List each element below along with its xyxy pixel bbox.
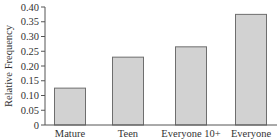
y-tick-label: 0.25 [21,46,39,57]
x-tick-label: Everyone 10+ [161,128,220,139]
bar-everyone-10 [176,47,207,125]
bar-chart: 00.050.100.150.200.250.300.350.40 Mature… [0,0,277,139]
y-tick-label: 0 [34,120,39,131]
y-tick-label: 0.35 [21,16,39,27]
bar-teen [113,57,144,125]
x-tick-label: Mature [55,128,86,139]
x-tick-label: Everyone [231,128,272,139]
y-tick-label: 0.15 [21,75,39,86]
y-axis-title: Relative Frequency [3,24,14,107]
x-tick-label: Teen [118,128,139,139]
y-tick-label: 0.20 [21,61,39,72]
x-axis: MatureTeenEveryone 10+Everyone [45,125,277,139]
y-tick-label: 0.40 [21,2,39,13]
bars [55,14,267,125]
y-tick-label: 0.05 [21,105,39,116]
y-axis: 00.050.100.150.200.250.300.350.40 [21,2,45,131]
y-tick-label: 0.10 [21,90,39,101]
bar-everyone [236,14,267,125]
bar-mature [55,88,86,125]
y-tick-label: 0.30 [21,31,39,42]
